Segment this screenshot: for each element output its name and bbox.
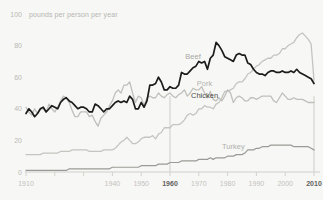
chart-canvas: 100pounds per person per year02040608019… [0,0,323,200]
unit-label: pounds per person per year [29,11,118,19]
x-tick-1950: 1950 [133,180,149,187]
x-tick-1990: 1990 [249,180,265,187]
y-tick-100: 100 [10,11,22,18]
x-tick-1940: 1940 [105,180,121,187]
series-label-beef: Beef [185,52,201,61]
y-tick-60: 60 [14,74,22,81]
x-tick-1980: 1980 [220,180,236,187]
x-tick-1910: 1910 [18,180,34,187]
y-tick-80: 80 [14,42,22,49]
series-label-chicken: Chicken [191,91,218,100]
meat-consumption-chart: 100pounds per person per year02040608019… [0,0,323,200]
y-tick-20: 20 [14,137,22,144]
x-tick-2000: 2000 [277,180,293,187]
y-tick-40: 40 [14,105,22,112]
x-tick-1960: 1960 [162,180,178,187]
x-tick-2010: 2010 [306,180,322,187]
series-label-turkey: Turkey [222,142,245,151]
series-label-pork: Pork [197,79,213,88]
x-tick-1970: 1970 [191,180,207,187]
y-tick-0: 0 [18,169,22,176]
